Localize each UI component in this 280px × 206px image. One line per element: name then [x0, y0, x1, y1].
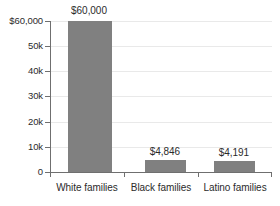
x-axis-label-latino-families: Latino families	[198, 182, 272, 193]
y-axis-label-10000: 10k	[0, 141, 43, 152]
y-axis-label-20000: 20k	[0, 116, 43, 127]
y-tick-40000	[45, 71, 50, 72]
y-tick-60000	[45, 21, 50, 22]
bar-black-families	[145, 160, 186, 172]
y-tick-20000	[45, 122, 50, 123]
x-axis-label-black-families: Black families	[124, 182, 198, 193]
bar-value-white-families: $60,000	[48, 5, 130, 16]
y-tick-50000	[45, 46, 50, 47]
y-tick-30000	[45, 96, 50, 97]
x-axis-line	[50, 172, 272, 173]
x-tick-2	[198, 172, 199, 177]
y-axis-label-60000: $60,000	[0, 15, 43, 26]
y-axis-line	[50, 21, 51, 172]
y-axis-label-0: 0	[0, 166, 43, 177]
x-axis-label-white-families: White families	[50, 182, 124, 193]
bar-latino-families	[214, 161, 255, 172]
x-tick-3	[271, 172, 272, 177]
bar-chart: $60,000 $4,846 $4,191 $60,000 50k 40k 30…	[0, 0, 280, 206]
y-axis-label-50000: 50k	[0, 40, 43, 51]
bar-value-latino-families: $4,191	[193, 147, 275, 158]
x-tick-0	[50, 172, 51, 177]
x-tick-1	[124, 172, 125, 177]
y-axis-label-40000: 40k	[0, 65, 43, 76]
y-axis-label-30000: 30k	[0, 90, 43, 101]
y-tick-10000	[45, 147, 50, 148]
bar-white-families	[68, 21, 112, 172]
